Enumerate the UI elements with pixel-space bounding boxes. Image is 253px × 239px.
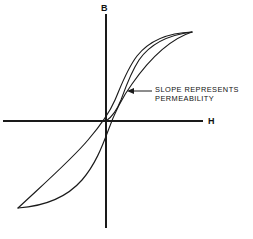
initial-magnetization-curve: [106, 32, 192, 121]
annotation-line-1: SLOPE REPRESENTS: [155, 85, 239, 94]
ascending-branch-curve: [18, 32, 192, 208]
hysteresis-curves-group: [18, 32, 192, 208]
hysteresis-diagram-canvas: B H SLOPE REPRESENTS PERMEABILITY: [0, 0, 253, 239]
axis-label-h: H: [208, 116, 215, 126]
axis-label-b: B: [101, 3, 108, 13]
annotation-pointer-group: [127, 88, 152, 94]
descending-branch-curve: [18, 32, 192, 208]
annotation-line-2: PERMEABILITY: [155, 94, 214, 103]
hysteresis-figure: B H SLOPE REPRESENTS PERMEABILITY: [0, 0, 253, 239]
